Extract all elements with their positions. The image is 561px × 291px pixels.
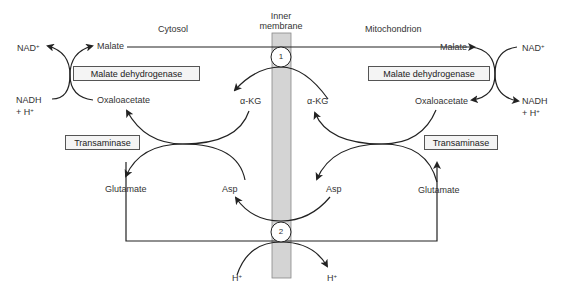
cytosol-malate-dehydrogenase-box: Malate dehydrogenase [73,66,200,81]
cytosol-glutamate-label: Glutamate [105,184,147,194]
mito-akg-label: α-KG [307,96,328,106]
proton-left-label: H+ [232,271,242,283]
right-trans-arc-oaa-to-akg [315,110,436,144]
malate-aspartate-shuttle-diagram: Cytosol Inner membrane Mitochondrion 1 2… [0,0,561,291]
mito-oxaloacetate-label: Oxaloacetate [415,96,468,106]
mitochondrion-label: Mitochondrion [365,24,422,34]
left-mdh-arc-nad [48,46,70,99]
right-trans-arc-glu-to-asp [317,144,437,182]
cytosol-malate-label: Malate [97,41,124,51]
mito-malate-dehydrogenase-box: Malate dehydrogenase [368,66,490,81]
mito-transaminase-box: Transaminase [424,135,498,150]
right-mdh-arc-nad [495,47,518,101]
cytosol-nadh-label: NADH+ H+ [16,95,42,117]
cytosol-label: Cytosol [158,24,188,34]
transporter-1-label: 1 [276,52,286,62]
proton-right-label: H+ [327,271,337,283]
membrane-label-line1: Inner [256,11,306,21]
cytosol-asp-label: Asp [222,184,238,194]
left-trans-arc-akg-to-oaa [127,111,249,144]
transporter-2-label: 2 [276,227,286,237]
left-trans-arc-asp-to-glu [126,144,245,180]
cytosol-nad-label: NAD+ [17,41,40,53]
membrane-label-line2: membrane [256,21,306,31]
mito-asp-label: Asp [326,184,342,194]
cytosol-transaminase-box: Transaminase [65,135,140,150]
mito-glutamate-label: Glutamate [418,185,460,195]
mito-malate-label: Malate [440,42,467,52]
inner-membrane-label: Inner membrane [256,11,306,31]
mito-nad-label: NAD+ [522,41,545,53]
cytosol-oxaloacetate-label: Oxaloacetate [97,95,150,105]
mito-nadh-label: NADH+ H+ [522,96,548,118]
cytosol-akg-label: α-KG [240,96,261,106]
